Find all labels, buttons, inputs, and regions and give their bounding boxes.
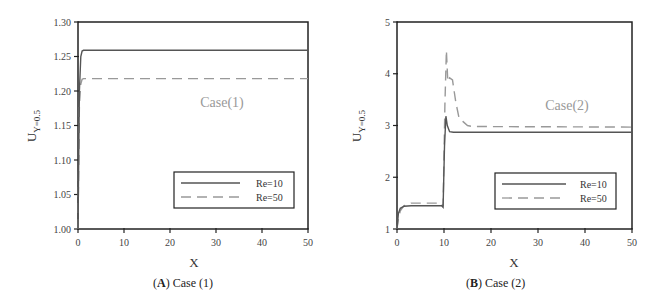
legend-label-re10: Re=10 [580,179,607,190]
case-annotation: Case(1) [200,95,244,111]
x-tick-label: 50 [303,237,313,248]
x-tick-label: 10 [119,237,129,248]
y-tick-label: 5 [385,17,390,28]
y-axis-ticks: 1.001.051.101.151.201.251.30 [54,17,80,235]
y-tick-label: 1.10 [54,155,72,166]
x-axis-label: X [509,255,519,270]
caption-text: Case (2) [485,276,525,290]
caption-letter: A [157,276,166,290]
caption-text: Case (1) [173,276,213,290]
chart-panel-b: 12345 01020304050 Case(2) Re=10 Re=50 X … [349,17,637,271]
x-axis-label: X [189,255,199,270]
y-axis-label: UY=0.5 [349,109,367,142]
y-tick-label: 3 [385,120,390,131]
legend-label-re50: Re=50 [256,192,283,203]
y-axis-ticks: 12345 [385,17,398,235]
case-annotation: Case(2) [545,98,589,114]
x-tick-label: 20 [165,237,175,248]
x-tick-label: 50 [627,237,637,248]
caption-panel-b: (B) Case (2) [466,276,525,291]
x-tick-label: 30 [533,237,543,248]
svg-text:UY=0.5: UY=0.5 [24,109,42,142]
legend-label-re50: Re=50 [580,193,607,204]
chart-panel-a: 1.001.051.101.151.201.251.30 01020304050… [24,17,313,271]
x-tick-label: 40 [257,237,267,248]
y-tick-label: 1.15 [54,120,72,131]
legend: Re=10 Re=50 [495,173,616,209]
x-tick-label: 40 [580,237,590,248]
y-tick-label: 1.00 [54,224,72,235]
y-tick-label: 2 [385,172,390,183]
x-tick-label: 10 [439,237,449,248]
legend-label-re10: Re=10 [256,178,283,189]
x-tick-label: 20 [486,237,496,248]
y-tick-label: 1.30 [54,17,72,28]
x-axis-ticks: 01020304050 [395,228,638,248]
x-tick-label: 0 [395,237,400,248]
y-axis-label: UY=0.5 [24,109,42,142]
y-tick-label: 1 [385,224,390,235]
x-tick-label: 0 [76,237,81,248]
y-tick-label: 1.25 [54,51,72,62]
y-tick-label: 1.20 [54,86,72,97]
figure-canvas: 1.001.051.101.151.201.251.30 01020304050… [0,0,654,302]
x-axis-ticks: 01020304050 [76,228,314,248]
caption-panel-a: (A) Case (1) [153,276,213,291]
x-tick-label: 30 [211,237,221,248]
y-tick-label: 1.05 [54,189,72,200]
caption-letter: B [470,276,478,290]
svg-text:UY=0.5: UY=0.5 [349,109,367,142]
legend: Re=10 Re=50 [174,172,294,208]
y-tick-label: 4 [385,68,390,79]
